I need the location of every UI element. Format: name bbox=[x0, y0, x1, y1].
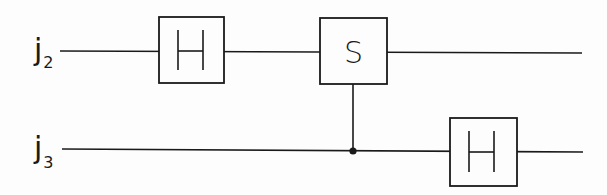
h-gate-j2: H bbox=[159, 17, 224, 83]
quantum-circuit: j2 j3 H S H bbox=[0, 0, 607, 195]
control-dot bbox=[349, 147, 356, 154]
qubit-label-j2: j2 bbox=[33, 32, 54, 72]
h-gate-j3: H bbox=[450, 118, 517, 186]
s-gate-j2: S bbox=[320, 18, 387, 84]
svg-text:S: S bbox=[344, 35, 363, 70]
qubit-label-j3: j3 bbox=[33, 130, 54, 172]
